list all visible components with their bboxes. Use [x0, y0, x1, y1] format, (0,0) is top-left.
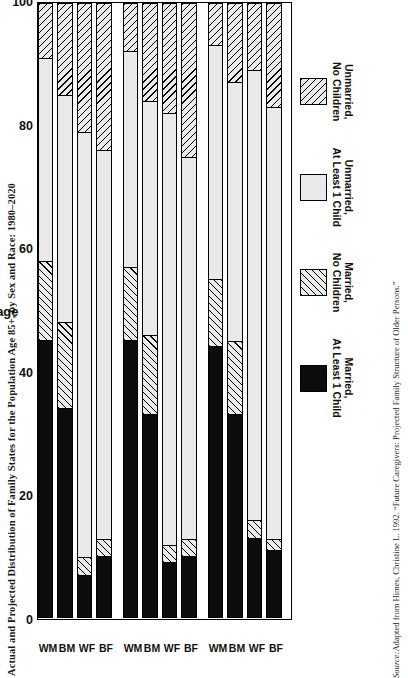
bar-segment	[208, 3, 224, 46]
bar-row-1980-BF	[97, 3, 113, 619]
bar-group-2000	[121, 3, 206, 619]
bar-segment	[123, 340, 139, 618]
bar-segment	[97, 150, 113, 539]
bar-row-2020-WM	[208, 3, 224, 619]
bar-row-2020-WF	[247, 3, 263, 619]
bar-segment	[97, 556, 113, 618]
stacked-bar	[267, 3, 283, 619]
bar-segment	[228, 3, 244, 83]
bar-row-1980-WF	[77, 3, 93, 619]
stacked-bar	[123, 3, 139, 619]
bar-segment	[208, 45, 224, 280]
bar-segment	[162, 545, 178, 564]
legend-swatch-unmarried-at-least-1-child	[300, 174, 327, 201]
bar-segment	[77, 575, 93, 618]
category-label-WM: WM	[28, 642, 68, 654]
bar-segment	[143, 3, 159, 102]
value-tick-40: 40	[3, 366, 33, 380]
figure-title-text: Actual and Projected Distribution of Fam…	[6, 183, 17, 676]
plot-area	[37, 2, 292, 620]
value-tick-20: 20	[3, 489, 33, 503]
value-tick-60: 60	[3, 242, 33, 256]
bar-segment	[267, 3, 283, 108]
bar-segment	[77, 3, 93, 133]
bar-row-1980-BM	[58, 3, 74, 619]
figure-title: Actual and Projected Distribution of Fam…	[0, 0, 22, 678]
bar-segment	[58, 408, 74, 618]
bar-segment	[208, 279, 224, 347]
stacked-bar	[77, 3, 93, 619]
bar-row-2000-WM	[123, 3, 139, 619]
bar-segment	[77, 132, 93, 558]
legend-item-label: Married, At Least 1 Child	[331, 338, 354, 417]
value-axis-title: Percentage	[0, 304, 19, 319]
bar-row-2020-BF	[267, 3, 283, 619]
legend-item: Married, No Children	[300, 253, 354, 313]
value-tick-80: 80	[3, 119, 33, 133]
bar-segment	[143, 101, 159, 336]
legend-swatch-married-at-least-1-child	[300, 365, 327, 392]
bar-segment	[38, 340, 54, 618]
bar-segment	[143, 335, 159, 415]
bar-segment	[77, 557, 93, 576]
bar-segment	[97, 539, 113, 558]
figure-source-note: Source: Adapted from Himes, Christine L.…	[386, 0, 406, 678]
legend-swatch-married-no-children	[300, 269, 327, 296]
chart-legend: Unmarried, No Children Unmarried, At Lea…	[300, 62, 380, 418]
bar-segment	[58, 95, 74, 324]
source-text: Adapted from Himes, Christine L. 1992. “…	[391, 281, 401, 651]
stacked-bar	[58, 3, 74, 619]
bar-segment	[182, 157, 198, 540]
legend-item-label: Unmarried, No Children	[331, 62, 354, 122]
bar-row-2000-BM	[143, 3, 159, 619]
bar-row-2000-BF	[182, 3, 198, 619]
bar-segment	[38, 3, 54, 59]
stacked-bar	[38, 3, 54, 619]
bar-segment	[228, 341, 244, 415]
legend-item: Unmarried, No Children	[300, 62, 354, 122]
bar-segment	[208, 346, 224, 618]
bar-segment	[58, 3, 74, 96]
legend-item-label: Unmarried, At Least 1 Child	[331, 148, 354, 227]
value-tick-0: 0	[3, 613, 33, 627]
bar-segment	[247, 70, 263, 521]
bar-segment	[123, 51, 139, 267]
bar-group-2020	[206, 3, 291, 619]
bar-segment	[58, 322, 74, 409]
chart-canvas: Unmarried, No Children Unmarried, At Lea…	[22, 2, 386, 676]
bar-segment	[182, 539, 198, 558]
bar-segment	[247, 3, 263, 71]
bar-segment	[228, 82, 244, 342]
stacked-bar	[208, 3, 224, 619]
bar-segment	[162, 113, 178, 546]
bar-segment	[267, 550, 283, 618]
stacked-bar	[228, 3, 244, 619]
bar-segment	[38, 58, 54, 262]
bar-segment	[97, 3, 113, 151]
bar-segment	[123, 267, 139, 341]
bar-row-2020-BM	[228, 3, 244, 619]
bar-segment	[162, 562, 178, 618]
stacked-bar	[162, 3, 178, 619]
legend-swatch-unmarried-no-children	[300, 78, 327, 105]
legend-item: Married, At Least 1 Child	[300, 338, 354, 417]
bar-segment	[247, 520, 263, 539]
bar-segment	[228, 414, 244, 618]
bar-segment	[182, 3, 198, 158]
bar-segment	[38, 261, 54, 341]
bar-segment	[143, 414, 159, 618]
bar-segment	[162, 3, 178, 114]
bar-segment	[123, 3, 139, 52]
stacked-bar	[143, 3, 159, 619]
bar-row-2000-WF	[162, 3, 178, 619]
bar-segment	[267, 107, 283, 540]
stacked-bar	[247, 3, 263, 619]
bar-segment	[247, 538, 263, 618]
stacked-bar	[97, 3, 113, 619]
value-tick-100: 100	[3, 0, 33, 9]
stacked-bar	[182, 3, 198, 619]
legend-item: Unmarried, At Least 1 Child	[300, 148, 354, 227]
legend-item-label: Married, No Children	[331, 253, 354, 313]
source-label: Source:	[391, 652, 401, 678]
bar-segment	[182, 556, 198, 618]
